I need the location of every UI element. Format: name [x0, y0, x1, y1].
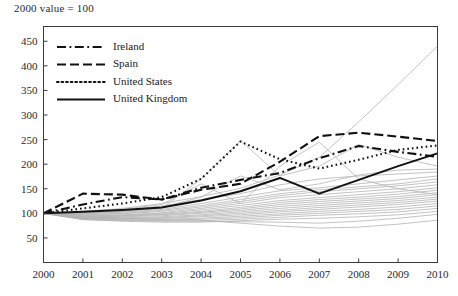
x-axis-tick-label: 2001	[72, 268, 94, 280]
y-axis-tick-label: 200	[21, 158, 38, 170]
y-axis-tick-label: 100	[21, 207, 38, 219]
legend-label-spain: Spain	[113, 57, 139, 69]
x-axis-tick-label: 2005	[230, 268, 253, 280]
y-axis-tick-label: 300	[21, 109, 38, 121]
legend-label-ireland: Ireland	[113, 40, 145, 52]
x-axis-tick-label: 2004	[190, 268, 213, 280]
legend-label-united-kingdom: United Kingdom	[113, 92, 188, 104]
chart-container: 2000 value = 100 50100150200250300350400…	[0, 0, 458, 296]
y-axis-tick-label: 50	[27, 232, 39, 244]
background-series-line	[44, 46, 438, 213]
x-axis-tick-label: 2003	[151, 268, 174, 280]
legend-label-united-states: United States	[113, 75, 172, 87]
x-axis-tick-label: 2002	[111, 268, 133, 280]
x-axis-tick-label: 2006	[269, 268, 292, 280]
x-axis-tick-label: 2007	[308, 268, 331, 280]
y-axis-tick-label: 400	[21, 60, 38, 72]
x-axis-ticks: 2000200120022003200420052006200720082009…	[33, 259, 450, 280]
y-axis-tick-label: 450	[21, 35, 38, 47]
y-axis-tick-label: 350	[21, 84, 38, 96]
series-line-united-states	[44, 142, 438, 214]
x-axis-tick-label: 2000	[33, 268, 56, 280]
background-series-line	[44, 142, 438, 213]
x-axis-tick-label: 2009	[387, 268, 410, 280]
plot-frame	[44, 27, 438, 263]
background-series-line	[44, 141, 438, 214]
chart-legend: IrelandSpainUnited StatesUnited Kingdom	[57, 40, 188, 105]
x-axis-tick-label: 2010	[427, 268, 450, 280]
y-axis-tick-label: 250	[21, 134, 38, 146]
x-axis-tick-label: 2008	[348, 268, 371, 280]
line-chart-plot: 50100150200250300350400450 2000200120022…	[0, 0, 458, 296]
axis-frame	[44, 27, 438, 263]
y-axis-tick-label: 150	[21, 183, 38, 195]
